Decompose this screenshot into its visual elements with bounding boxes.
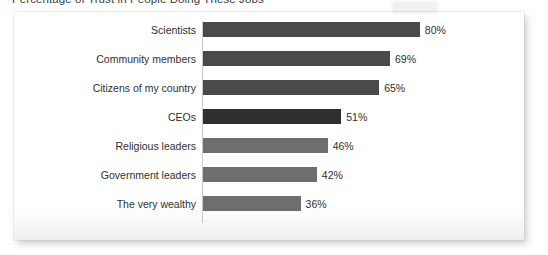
bar-row: Community members69% <box>0 51 548 66</box>
bar-row: Scientists80% <box>0 22 548 37</box>
category-label: Scientists <box>0 24 196 36</box>
bar <box>203 80 379 95</box>
bar <box>203 109 341 124</box>
bar <box>203 167 317 182</box>
plot-area: Scientists80%Community members69%Citizen… <box>0 0 548 255</box>
bar <box>203 22 420 37</box>
category-label: CEOs <box>0 111 196 123</box>
bar-value-label: 80% <box>425 24 446 36</box>
bar-row: Citizens of my country65% <box>0 80 548 95</box>
category-label: Government leaders <box>0 169 196 181</box>
category-label: Religious leaders <box>0 140 196 152</box>
bar-value-label: 65% <box>384 82 405 94</box>
bar-row: Government leaders42% <box>0 167 548 182</box>
bar <box>203 138 328 153</box>
bar <box>203 196 301 211</box>
bar-value-label: 51% <box>346 111 367 123</box>
bar-value-label: 36% <box>306 198 327 210</box>
category-label: The very wealthy <box>0 198 196 210</box>
bar-row: CEOs51% <box>0 109 548 124</box>
bar-row: The very wealthy36% <box>0 196 548 211</box>
bar-value-label: 69% <box>395 53 416 65</box>
chart-figure: Percentage of Trust in People Doing Thes… <box>0 0 548 255</box>
bar-value-label: 42% <box>322 169 343 181</box>
category-label: Community members <box>0 53 196 65</box>
bar <box>203 51 390 66</box>
bar-value-label: 46% <box>333 140 354 152</box>
category-label: Citizens of my country <box>0 82 196 94</box>
bar-row: Religious leaders46% <box>0 138 548 153</box>
